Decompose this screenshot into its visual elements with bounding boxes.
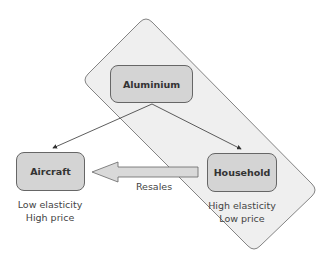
- node-aircraft-label: Aircraft: [30, 166, 71, 177]
- node-aircraft: Aircraft: [16, 152, 85, 191]
- node-aluminium-label: Aluminium: [123, 79, 180, 90]
- node-aluminium: Aluminium: [110, 65, 193, 103]
- aircraft-caption-line2: High price: [5, 211, 95, 224]
- household-caption: High elasticity Low price: [197, 199, 287, 225]
- aircraft-caption: Low elasticity High price: [5, 198, 95, 224]
- household-caption-line1: High elasticity: [197, 199, 287, 212]
- node-household-label: Household: [214, 167, 271, 178]
- node-household: Household: [207, 153, 277, 192]
- aircraft-caption-line1: Low elasticity: [5, 198, 95, 211]
- resales-label: Resales: [134, 180, 174, 193]
- household-caption-line2: Low price: [197, 212, 287, 225]
